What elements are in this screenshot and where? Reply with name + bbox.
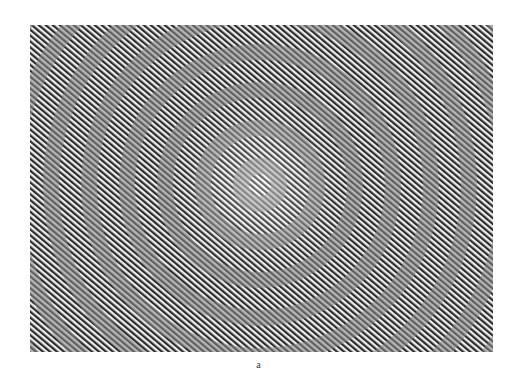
moire-pattern-image: [30, 25, 493, 352]
figure-caption: a: [0, 359, 517, 370]
moire-svg: [30, 25, 493, 352]
